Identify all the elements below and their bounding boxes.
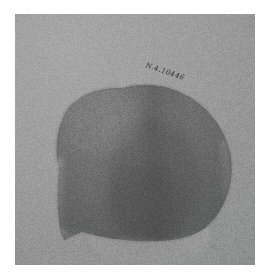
figure-root: Photograph of a dome-shaped artifact fra… xyxy=(0,0,270,280)
artifact-silhouette xyxy=(15,14,255,265)
artifact-fragment xyxy=(15,14,255,265)
artifact-body xyxy=(15,14,255,265)
photographic-plate: N.4.10446 xyxy=(15,14,255,265)
